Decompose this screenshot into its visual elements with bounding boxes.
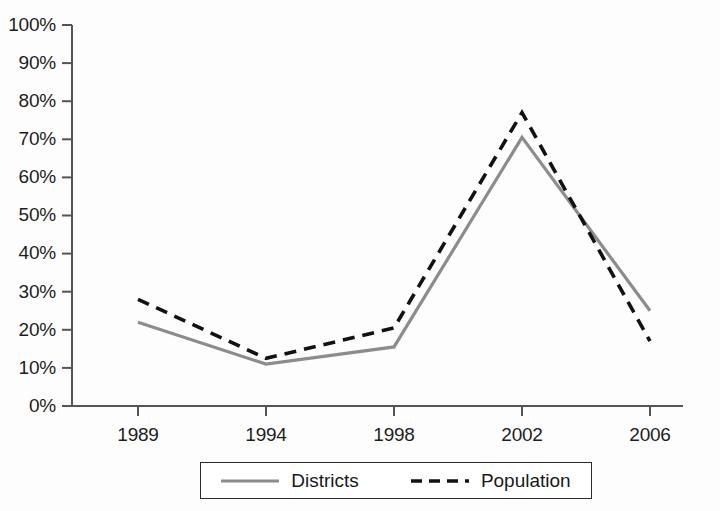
y-tick-label-60: 60% (0, 166, 56, 188)
dashed-line-swatch-icon (411, 474, 469, 488)
x-tick-label-1998: 1998 (344, 424, 444, 446)
solid-line-swatch-icon (221, 474, 279, 488)
y-tick-label-30: 30% (0, 281, 56, 303)
series-line-districts (138, 137, 650, 364)
y-tick-label-50: 50% (0, 204, 56, 226)
y-tick-label-0: 0% (0, 395, 56, 417)
legend-entry-population: Population (411, 470, 571, 492)
series-line-population (138, 113, 650, 359)
x-tick-label-2006: 2006 (600, 424, 700, 446)
legend-label-population: Population (481, 470, 571, 492)
line-chart: 100% 90% 80% 70% 60% 50% 40% 30% 20% 10%… (0, 0, 720, 511)
x-tick-label-2002: 2002 (472, 424, 572, 446)
y-tick-label-20: 20% (0, 319, 56, 341)
x-tick-label-1989: 1989 (88, 424, 188, 446)
y-tick-label-90: 90% (0, 52, 56, 74)
y-tick-label-100: 100% (0, 14, 56, 36)
x-axis-ticks (138, 406, 650, 416)
x-tick-label-1994: 1994 (216, 424, 316, 446)
y-axis-ticks (62, 25, 72, 406)
y-tick-label-70: 70% (0, 128, 56, 150)
chart-legend: Districts Population (200, 462, 592, 499)
legend-label-districts: Districts (291, 470, 359, 492)
y-tick-label-40: 40% (0, 242, 56, 264)
y-tick-label-80: 80% (0, 90, 56, 112)
legend-entry-districts: Districts (221, 470, 359, 492)
y-tick-label-10: 10% (0, 357, 56, 379)
